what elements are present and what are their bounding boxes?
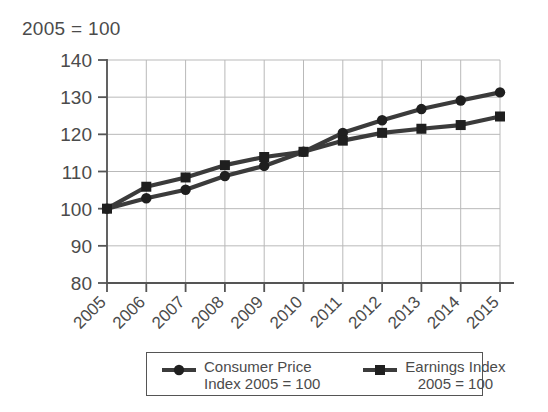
legend-entry-earnings-index: Earnings Index 2005 = 100 (362, 358, 505, 392)
y-tick-label: 130 (60, 87, 92, 108)
legend-entry-consumer-price-index: Consumer Price Index 2005 = 100 (161, 358, 320, 392)
legend-line-1: Consumer Price (204, 358, 312, 375)
x-axis-ticks: 2005200620072008200920102011201220132014… (70, 283, 503, 333)
x-tick-label: 2015 (463, 292, 503, 332)
x-tick-label: 2013 (384, 292, 424, 332)
data-point-marker (338, 136, 348, 146)
y-tick-label: 90 (71, 236, 92, 257)
y-tick-label: 110 (62, 162, 92, 183)
data-point-marker (377, 115, 387, 125)
data-point-marker (141, 193, 151, 203)
chart-plot-area: 8090100110120130140 20052006200720082009… (0, 0, 548, 412)
data-point-marker (495, 87, 505, 97)
x-tick-label: 2009 (227, 292, 267, 332)
data-point-marker (141, 182, 151, 192)
data-point-marker (495, 111, 505, 121)
circle-marker-icon (161, 364, 197, 376)
data-point-marker (102, 204, 112, 214)
y-tick-label: 80 (71, 273, 92, 294)
x-tick-label: 2008 (188, 292, 228, 332)
data-point-marker (181, 172, 191, 182)
data-point-marker (180, 185, 190, 195)
legend-line-2: Index 2005 = 100 (204, 375, 320, 392)
legend-line-2: 2005 = 100 (405, 375, 505, 392)
legend-line-1: Earnings Index (405, 358, 505, 375)
legend-label-consumer-price-index: Consumer Price Index 2005 = 100 (204, 358, 320, 392)
x-tick-label: 2007 (148, 292, 188, 332)
gridlines (107, 60, 500, 283)
x-tick-label: 2011 (306, 292, 345, 331)
data-point-marker (377, 128, 387, 138)
data-point-marker (456, 120, 466, 130)
chart-figure: 2005 = 100 8090100110120130140 200520062… (0, 0, 548, 412)
y-axis-ticks: 8090100110120130140 (60, 50, 107, 294)
y-tick-label: 120 (60, 124, 92, 145)
x-tick-label: 2005 (70, 292, 110, 332)
data-point-marker (259, 152, 269, 162)
x-tick-label: 2012 (345, 292, 385, 332)
x-tick-label: 2014 (423, 292, 463, 332)
data-point-marker (299, 147, 309, 157)
y-tick-label: 140 (60, 50, 92, 71)
square-marker-icon (362, 364, 398, 376)
legend-label-earnings-index: Earnings Index 2005 = 100 (405, 358, 505, 392)
x-tick-label: 2006 (109, 292, 149, 332)
chart-legend: Consumer Price Index 2005 = 100 Earnings… (146, 352, 483, 396)
data-point-marker (416, 104, 426, 114)
data-point-marker (259, 161, 269, 171)
data-point-marker (456, 95, 466, 105)
x-tick-label: 2010 (266, 292, 306, 332)
data-point-marker (220, 160, 230, 170)
data-point-marker (416, 124, 426, 134)
y-tick-label: 100 (60, 199, 92, 220)
data-point-marker (220, 171, 230, 181)
